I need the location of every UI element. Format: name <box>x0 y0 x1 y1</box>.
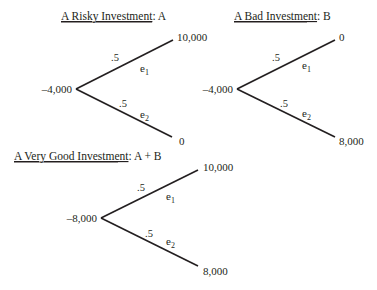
root-value: –4,000 <box>41 83 73 95</box>
branch-line-lower <box>101 218 198 266</box>
tree-title-underlined: A Risky Investment <box>61 10 153 23</box>
payoff-lower: 8,000 <box>203 265 228 277</box>
branch-line-upper <box>101 170 198 218</box>
event-label-lower: e2 <box>302 107 311 122</box>
tree-title: A Bad Investment: B <box>234 10 331 22</box>
tree-title: A Risky Investment: A <box>61 10 167 23</box>
event-label-upper: e1 <box>140 62 149 77</box>
branch-probability-lower: .5 <box>119 98 127 109</box>
payoff-lower: 0 <box>179 135 185 147</box>
event-label-lower: e2 <box>140 108 149 123</box>
branch-probability-upper: .5 <box>272 52 280 63</box>
tree-title-suffix: : A <box>152 10 166 22</box>
branch-probability-upper: .5 <box>137 182 145 193</box>
branch-line-upper <box>76 40 173 89</box>
payoff-lower: 8,000 <box>339 135 364 147</box>
branch-probability-lower: .5 <box>145 228 153 239</box>
tree-very-good-investment-a-plus-b: A Very Good Investment: A + B –8,000 .5 … <box>14 150 234 277</box>
decision-trees-figure: A Risky Investment: A –4,000 .5 .5 e1 e2… <box>0 0 377 290</box>
tree-title-underlined: A Very Good Investment <box>14 150 129 163</box>
tree-risky-investment-a: A Risky Investment: A –4,000 .5 .5 e1 e2… <box>41 10 208 147</box>
branch-probability-upper: .5 <box>111 52 119 63</box>
tree-bad-investment-b: A Bad Investment: B –4,000 .5 .5 e1 e2 0… <box>202 10 365 147</box>
root-value: –4,000 <box>202 83 234 95</box>
branch-line-lower <box>76 89 172 137</box>
event-label-upper: e1 <box>166 190 175 205</box>
tree-title-underlined: A Bad Investment <box>234 10 318 22</box>
payoff-upper: 0 <box>339 31 345 43</box>
tree-title-suffix: : B <box>317 10 331 22</box>
event-label-upper: e1 <box>302 59 311 74</box>
tree-title: A Very Good Investment: A + B <box>14 150 162 163</box>
branch-line-upper <box>237 40 335 89</box>
root-value: –8,000 <box>66 212 98 224</box>
tree-title-suffix: : A + B <box>128 150 161 162</box>
branch-probability-lower: .5 <box>280 98 288 109</box>
payoff-upper: 10,000 <box>203 161 234 173</box>
payoff-upper: 10,000 <box>177 31 208 43</box>
event-label-lower: e2 <box>166 235 175 250</box>
branch-line-lower <box>237 89 335 137</box>
